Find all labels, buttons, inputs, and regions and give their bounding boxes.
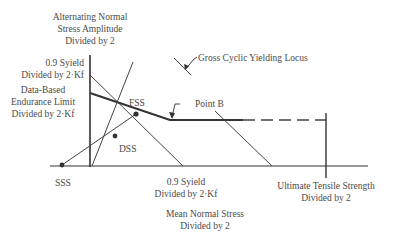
load-line: [62, 114, 136, 165]
x-axis-title-line: Mean Normal Stress: [160, 208, 250, 220]
y-axis-title-line: Divided by 2: [52, 35, 128, 47]
y-yield-label-line: 0.9 Syield: [0, 57, 84, 69]
y-endurance-label-line: Data-Based: [0, 84, 86, 96]
y-axis-title-line: Stress Amplitude: [52, 23, 128, 35]
x-yield-label: 0.9 Syield Divided by 2·Kf: [148, 176, 224, 200]
uts-label: Ultimate Tensile Strength Divided by 2: [271, 180, 381, 204]
uts-label-line: Divided by 2: [271, 192, 381, 204]
dss-point: [113, 134, 118, 139]
gross-cyclic-label: Gross Cyclic Yielding Locus: [198, 52, 308, 64]
fss-point: [133, 111, 138, 116]
y-axis-title: Alternating Normal Stress Amplitude Divi…: [52, 11, 128, 47]
y-endurance-label-line: Divided by 2·Kf: [0, 108, 86, 120]
x-yield-label-line: Divided by 2·Kf: [148, 188, 224, 200]
fss-label: FSS: [129, 97, 145, 109]
point-b-label: Point B: [195, 98, 224, 110]
y-yield-label-line: Divided by 2·Kf: [0, 69, 84, 81]
sss-label: SSS: [55, 177, 71, 189]
uts-label-line: Ultimate Tensile Strength: [271, 180, 381, 192]
gross-yield-line: [215, 111, 272, 166]
y-yield-label: 0.9 Syield Divided by 2·Kf: [0, 57, 84, 81]
fatigue-diagram: Alternating Normal Stress Amplitude Divi…: [0, 0, 396, 237]
x-axis-title: Mean Normal Stress Divided by 2: [160, 208, 250, 232]
x-axis-title-line: Divided by 2: [160, 220, 250, 232]
y-endurance-label-line: Endurance Limit: [0, 96, 86, 108]
dss-label: DSS: [119, 143, 136, 155]
arrow-icon: [169, 112, 175, 119]
x-yield-label-line: 0.9 Syield: [148, 176, 224, 188]
y-endurance-label: Data-Based Endurance Limit Divided by 2·…: [0, 84, 86, 120]
sss-point: [60, 163, 65, 168]
y-axis-title-line: Alternating Normal: [52, 11, 128, 23]
